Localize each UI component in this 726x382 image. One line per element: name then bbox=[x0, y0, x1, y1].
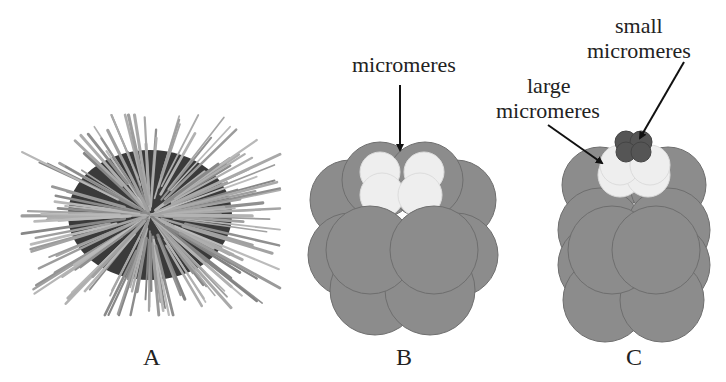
small-micromeres-label-line2: micromeres bbox=[587, 40, 691, 62]
small-micromeres-label-line1: small bbox=[615, 15, 663, 37]
micromeres-label: micromeres bbox=[352, 54, 456, 76]
embryo-c-illustration bbox=[558, 131, 710, 342]
small-micromeres-arrow bbox=[640, 62, 684, 138]
panel-label-a: A bbox=[143, 345, 160, 369]
large-micromeres-label-line1: large bbox=[527, 75, 571, 97]
panel-label-b: B bbox=[396, 345, 412, 369]
sea-urchin-illustration bbox=[22, 115, 280, 315]
embryo-b-illustration bbox=[308, 142, 498, 335]
panel-label-c: C bbox=[626, 345, 642, 369]
large-micromeres-label-line2: micromeres bbox=[496, 100, 600, 122]
